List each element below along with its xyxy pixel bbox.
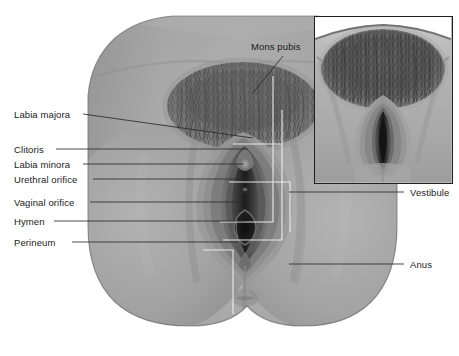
label-perineum: Perineum xyxy=(14,237,55,248)
label-vestibule: Vestibule xyxy=(410,187,449,198)
label-labia-majora: Labia majora xyxy=(14,109,70,120)
label-clitoris: Clitoris xyxy=(14,144,44,155)
inset-closeup-photo xyxy=(314,16,453,184)
label-mons-pubis: Mons pubis xyxy=(251,41,301,52)
label-hymen: Hymen xyxy=(14,216,45,227)
label-vaginal-orifice: Vaginal orifice xyxy=(14,197,74,208)
label-anus: Anus xyxy=(410,259,432,270)
anatomical-figure: Mons pubis Labia majora Clitoris Labia m… xyxy=(0,0,459,356)
label-urethral-orifice: Urethral orifice xyxy=(14,174,77,185)
label-labia-minora: Labia minora xyxy=(14,159,70,170)
